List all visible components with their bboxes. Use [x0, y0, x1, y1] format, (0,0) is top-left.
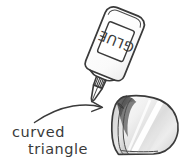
illustration-canvas: GLUE curved triangle [0, 0, 191, 166]
illustration-svg: GLUE curved triangle [0, 0, 191, 166]
annotation-line1: curved [12, 124, 65, 140]
curved-triangle-solid [112, 96, 178, 155]
curved-arrow-shaft [35, 105, 102, 123]
annotation-label: curved triangle [12, 124, 88, 157]
glue-bottle: GLUE [72, 4, 147, 109]
curved-arrow-pointer [35, 102, 103, 123]
annotation-line2: triangle [28, 141, 88, 157]
